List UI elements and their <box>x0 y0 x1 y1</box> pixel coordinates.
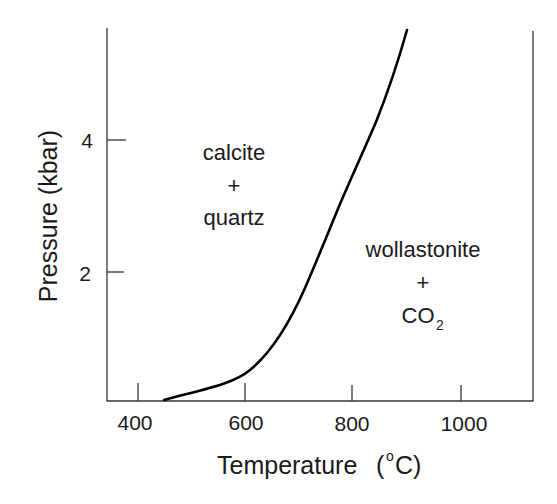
region-left-line1: calcite <box>203 140 265 165</box>
region-right-plus: + <box>417 270 430 295</box>
region-right-line1: wollastonite <box>365 237 481 262</box>
x-axis-title-main: Temperature <box>217 451 357 479</box>
x-axis-title-open-paren: ( <box>376 451 385 479</box>
x-tick-label-400: 400 <box>117 411 152 434</box>
region-left-line3: quartz <box>203 205 264 230</box>
x-tick-label-600: 600 <box>228 411 263 434</box>
region-label-calcite-quartz: calcite + quartz <box>203 140 265 230</box>
reaction-curve <box>164 30 407 400</box>
x-tick-label-1000: 1000 <box>441 412 488 435</box>
y-tick-label-4: 4 <box>81 129 93 152</box>
x-axis-title-degree: o <box>386 448 394 464</box>
phase-diagram: 4 2 400 600 800 1000 Pressure (kbar) Tem… <box>0 0 557 504</box>
x-axis-title-unit: C) <box>395 451 421 479</box>
y-tick-label-2: 2 <box>79 262 91 285</box>
region-right-subscript-2: 2 <box>436 317 444 333</box>
region-label-wollastonite-co2: wollastonite + CO 2 <box>365 237 481 333</box>
region-right-co: CO <box>402 303 435 328</box>
x-axis-title: Temperature ( o C) <box>217 448 421 479</box>
x-tick-label-800: 800 <box>334 412 369 435</box>
region-left-plus: + <box>228 173 241 198</box>
y-axis-title: Pressure (kbar) <box>34 130 62 302</box>
